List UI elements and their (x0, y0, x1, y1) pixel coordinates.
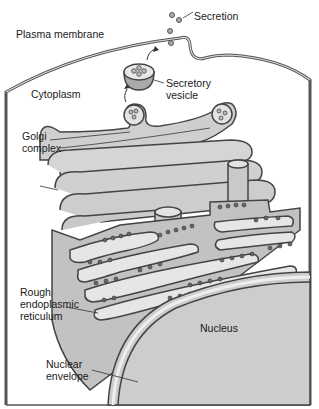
label-golgi-line2: complex (22, 142, 61, 154)
label-secretory-vesicle-line1: Secretory (166, 77, 211, 89)
secretory-vesicle (124, 64, 154, 90)
label-nucleus: Nucleus (200, 322, 238, 334)
secretion-granules (168, 13, 182, 46)
label-plasma-membrane: Plasma membrane (16, 28, 104, 40)
label-secretory-vesicle-line2: vesicle (166, 89, 198, 101)
label-nuclear-envelope-line1: Nuclear (46, 358, 82, 370)
label-rer-line3: reticulum (20, 310, 63, 322)
label-rer-line1: Rough (20, 286, 51, 298)
label-secretion: Secretion (194, 10, 238, 22)
label-rer-line2: endoplasmic (20, 298, 79, 310)
cell-diagram (0, 0, 319, 409)
label-nuclear-envelope-line2: envelope (46, 370, 89, 382)
label-cytoplasm: Cytoplasm (31, 88, 81, 100)
label-golgi-line1: Golgi (22, 130, 47, 142)
